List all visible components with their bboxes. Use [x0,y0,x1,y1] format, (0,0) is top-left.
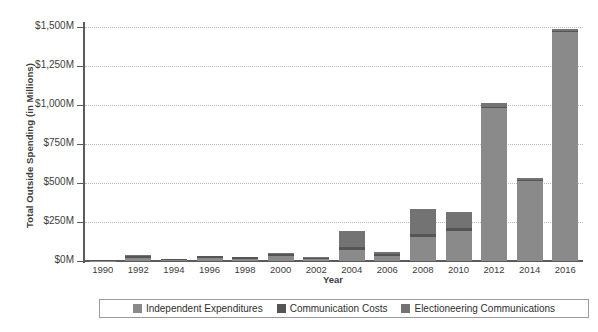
bar-segment-independent-expenditures [268,256,294,261]
bar-segment-independent-expenditures [446,231,472,261]
bar-2008[interactable] [410,209,436,261]
y-tick-label: $250M [0,215,74,226]
y-tick-label: $1,500M [0,20,74,31]
chart-legend: Independent Expenditures Communication C… [99,299,589,318]
legend-swatch-independent-expenditures [133,304,142,313]
bar-2004[interactable] [339,231,365,261]
plot-area [85,27,583,261]
bar-2006[interactable] [374,252,400,261]
bar-segment-electioneering-communications [339,231,365,247]
bar-1990[interactable] [90,260,116,261]
x-axis-title: Year [84,274,582,285]
gridline [85,183,583,184]
bar-segment-independent-expenditures [197,258,223,261]
legend-item[interactable]: Electioneering Communications [401,303,555,314]
bar-segment-independent-expenditures [410,237,436,261]
bar-segment-independent-expenditures [232,259,258,261]
legend-item[interactable]: Independent Expenditures [133,303,263,314]
gridline [85,27,583,28]
bar-segment-independent-expenditures [552,32,578,261]
bar-2010[interactable] [446,212,472,261]
y-tick-label: $0M [0,254,74,265]
bar-segment-independent-expenditures [125,258,151,261]
bar-2000[interactable] [268,253,294,261]
gridline [85,222,583,223]
bar-segment-electioneering-communications [446,212,472,228]
y-tick-label: $1,000M [0,98,74,109]
bar-segment-independent-expenditures [161,260,187,261]
legend-swatch-electioneering-communications [401,304,410,313]
legend-label: Independent Expenditures [146,303,263,314]
bar-2014[interactable] [517,178,543,261]
bar-1994[interactable] [161,259,187,261]
bar-2012[interactable] [481,103,507,261]
bar-segment-independent-expenditures [374,256,400,261]
legend-swatch-communication-costs [277,304,286,313]
bar-segment-independent-expenditures [339,250,365,261]
bar-segment-independent-expenditures [481,108,507,261]
bar-segment-independent-expenditures [303,259,329,261]
y-tick-label: $500M [0,176,74,187]
bar-1998[interactable] [232,257,258,261]
y-tick-label: $750M [0,137,74,148]
legend-label: Communication Costs [290,303,388,314]
legend-item[interactable]: Communication Costs [277,303,388,314]
gridline [85,66,583,67]
bar-segment-independent-expenditures [517,181,543,261]
outside-spending-bar-chart: Total Outside Spending (in Millions) $0M… [0,0,598,332]
bar-2016[interactable] [552,29,578,261]
bar-1996[interactable] [197,256,223,261]
bar-segment-electioneering-communications [410,209,436,233]
bar-2002[interactable] [303,257,329,261]
gridline [85,144,583,145]
y-tick-label: $1,250M [0,59,74,70]
gridline [85,105,583,106]
legend-label: Electioneering Communications [414,303,555,314]
bar-1992[interactable] [125,255,151,261]
